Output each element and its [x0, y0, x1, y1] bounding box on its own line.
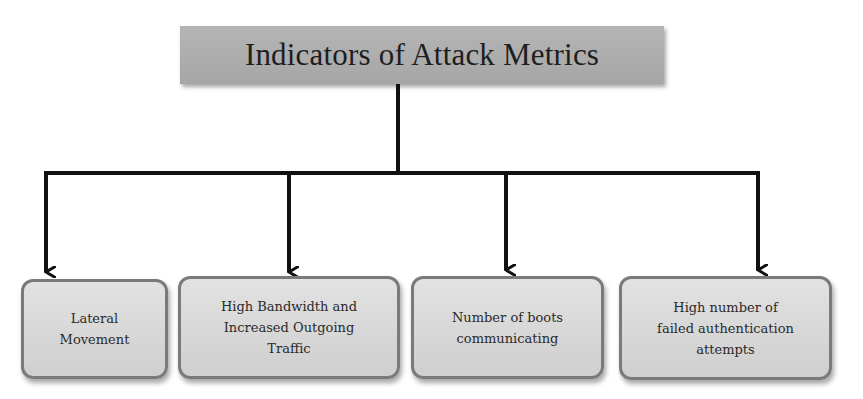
child-node-label: High Bandwidth and Increased Outgoing Tr… — [215, 296, 363, 359]
child-node-high-bandwidth: High Bandwidth and Increased Outgoing Tr… — [178, 276, 400, 379]
child-node-label: High number of failed authentication att… — [651, 297, 800, 360]
child-node-label: Number of boots communicating — [446, 307, 569, 349]
child-node-failed-authentication: High number of failed authentication att… — [619, 276, 832, 380]
child-node-label: Lateral Movement — [54, 308, 136, 350]
child-node-boots-communicating: Number of boots communicating — [411, 276, 604, 379]
child-node-lateral-movement: Lateral Movement — [21, 279, 168, 379]
